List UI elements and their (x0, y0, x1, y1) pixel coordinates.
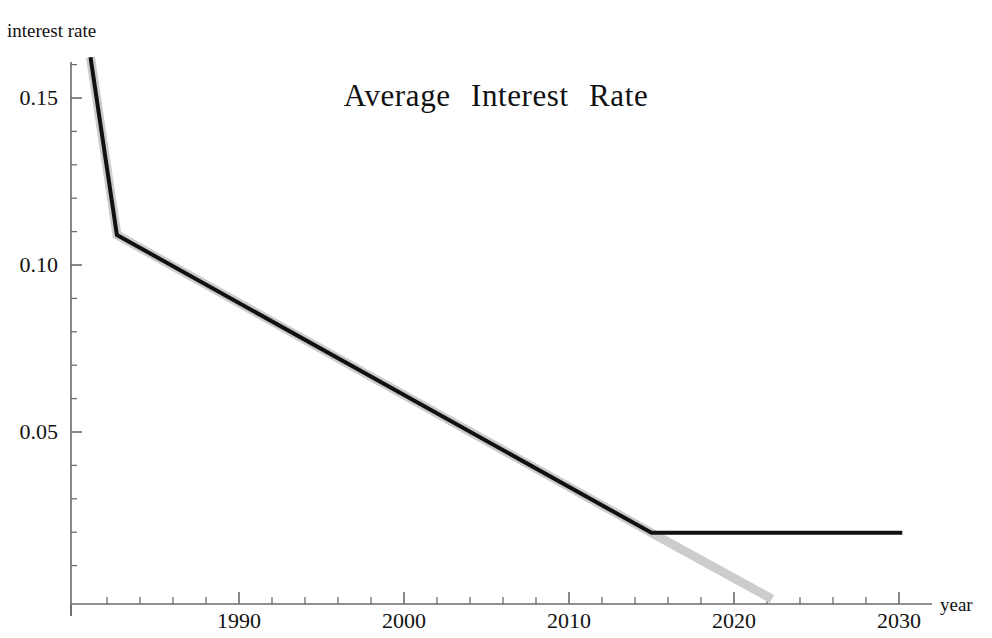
chart-figure: interest rate Average Interest Rate year… (0, 0, 992, 638)
series-line-historical-and-capped-projection (91, 57, 903, 533)
data-series-layer (91, 57, 903, 599)
y-axis-ticks (71, 65, 82, 566)
plot-area (0, 0, 992, 638)
series-line-uncapped-linear-trend (91, 57, 772, 599)
